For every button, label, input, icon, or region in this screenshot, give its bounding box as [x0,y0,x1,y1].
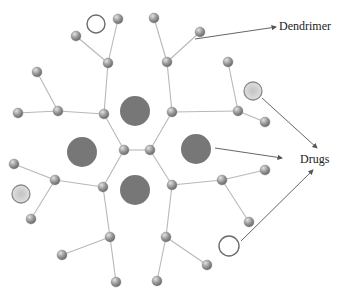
terminal-node [202,260,212,270]
generation-1-node [99,109,109,119]
generation-1-node [98,182,108,192]
bond-line [157,237,166,281]
bond-line [166,237,207,265]
bond-line [55,180,103,187]
bond-line [150,150,172,185]
dendrimer-label: Dendrimer [279,20,331,32]
generation-1-node [167,107,177,117]
encapsulated-drug-sphere [120,96,150,126]
generation-2-node [233,106,243,116]
terminal-node [9,159,19,169]
encapsulated-drug-sphere [181,134,211,164]
bond-line [154,18,167,62]
bond-line [103,150,124,187]
dendrimer-diagram [0,0,339,296]
terminal-node [113,14,123,24]
terminal-node [149,13,159,23]
terminal-node [111,277,121,287]
terminal-node [195,27,205,37]
bond-line [104,63,108,114]
annotation-arrows [195,27,317,241]
arrow-surface-drug-to-drugs [262,98,317,148]
terminal-node [13,108,23,118]
bond-line [110,237,116,282]
core-node [145,145,155,155]
bond-line [103,187,110,237]
surface-drug-filled [12,185,30,203]
bond-line [62,237,110,255]
bond-line [31,180,55,219]
encapsulated-drug-sphere [120,175,150,205]
generation-1-node [167,180,177,190]
bond-line [222,180,249,222]
generation-2-node [50,175,60,185]
arrow-core-drug-to-drugs [215,148,282,158]
bond-line [172,180,222,185]
bond-line [14,164,55,180]
generation-2-node [105,232,115,242]
core-node [119,145,129,155]
surface-drug-filled [244,82,262,100]
bond-line [167,62,172,112]
arrow-to-dendrimer-label [195,27,276,39]
terminal-node [71,31,81,41]
generation-2-node [162,57,172,67]
bond-line [108,19,118,63]
generation-2-node [217,175,227,185]
drugs-label: Drugs [300,153,329,165]
bond-line [172,111,238,112]
terminal-node [32,67,42,77]
bond-line [167,32,200,62]
terminal-node [260,165,270,175]
bond-line [228,62,238,111]
bond-line [150,112,172,150]
generation-2-node [161,232,171,242]
bond-line [18,111,58,113]
surface-drug-empty [87,15,105,33]
bond-line [222,170,265,180]
terminal-node [152,276,162,286]
terminal-node [260,117,270,127]
terminal-node [223,57,233,67]
arrow-empty-marker-to-drugs [241,170,313,241]
bond-line [76,36,108,63]
generation-2-node [103,58,113,68]
bond-line [37,72,58,111]
terminal-node [26,214,36,224]
encapsulated-drug-sphere [67,137,97,167]
surface-drug-empty [219,236,239,256]
terminal-node [57,250,67,260]
generation-2-node [53,106,63,116]
bond-line [166,185,172,237]
bond-line [104,114,124,150]
terminal-node [244,217,254,227]
bond-line [58,111,104,114]
surface-drugs [12,15,262,256]
